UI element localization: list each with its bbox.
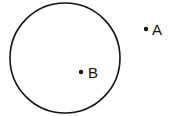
circle	[10, 3, 120, 113]
point-b-dot	[79, 70, 83, 74]
point-a-dot	[144, 27, 148, 31]
diagram: A B	[0, 0, 174, 116]
point-a-label: A	[152, 21, 162, 38]
point-b-label: B	[88, 64, 98, 81]
